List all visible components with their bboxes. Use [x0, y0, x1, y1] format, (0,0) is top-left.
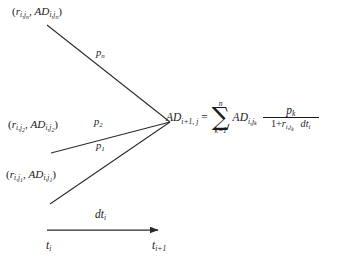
main-equation: ADi+1, j = n ∑ k=1 ADi,jk pk 1+ri,jk dti [166, 100, 319, 134]
time-end-label: ti+1 [152, 240, 166, 252]
equation-lhs: ADi+1, j [166, 111, 198, 123]
time-interval-label: dti [95, 209, 106, 221]
diagram-lines [0, 0, 337, 273]
diagram-canvas: (ri,jn, ADi,jn) (ri,j2, ADi,j2) (ri,j1, … [0, 0, 337, 273]
sum-lower-limit: k=1 [215, 127, 227, 135]
summation-operator: n ∑ k=1 [212, 100, 230, 134]
branch-line-n [47, 25, 170, 122]
branch-line-1 [50, 122, 170, 204]
sigma-glyph: ∑ [212, 107, 230, 127]
fraction-denominator: 1+ri,jk dti [269, 118, 312, 129]
equals-sign: = [201, 111, 208, 123]
edge-label-p2: p2 [94, 117, 103, 128]
node-label-1: (ri,j1, ADi,j1) [6, 169, 56, 180]
dt-factor: dti [301, 119, 311, 129]
node-label-n: (ri,jn, ADi,jn) [12, 6, 62, 17]
node-label-2: (ri,j2, ADi,j2) [8, 119, 58, 130]
time-start-label: ti [46, 240, 51, 252]
edge-label-p1: p1 [96, 141, 105, 152]
summand-term: ADi,jk [233, 111, 257, 123]
fraction-numerator: pk [280, 105, 301, 118]
edge-label-pn: pn [96, 48, 105, 59]
fraction-term: pk 1+ri,jk dti [263, 105, 319, 130]
branch-line-2 [51, 122, 170, 153]
